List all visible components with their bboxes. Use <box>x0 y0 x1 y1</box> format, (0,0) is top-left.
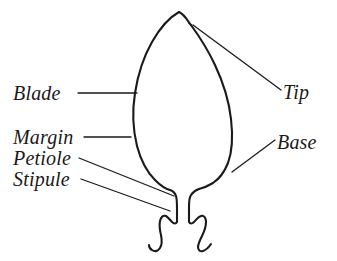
label-tip: Tip <box>283 82 309 102</box>
label-blade: Blade <box>13 83 61 103</box>
right-stipule <box>189 216 211 251</box>
leader-line-base <box>232 140 275 172</box>
leader-line-tip <box>193 25 281 90</box>
leaf-diagram-figure: Blade Margin Petiole Stipule Tip Base <box>0 0 337 261</box>
leaf-blade-left-margin <box>133 12 179 190</box>
label-base: Base <box>277 132 317 152</box>
label-petiole: Petiole <box>13 148 71 168</box>
leaf-apex-notch <box>179 12 191 25</box>
leader-line-stipule <box>81 179 170 211</box>
label-margin: Margin <box>13 127 73 147</box>
left-stipule <box>149 216 177 251</box>
leaf-base-right-shoulder <box>189 189 199 216</box>
leaf-base-left-shoulder <box>170 190 177 216</box>
label-stipule: Stipule <box>13 169 70 189</box>
leader-line-petiole <box>79 158 174 196</box>
